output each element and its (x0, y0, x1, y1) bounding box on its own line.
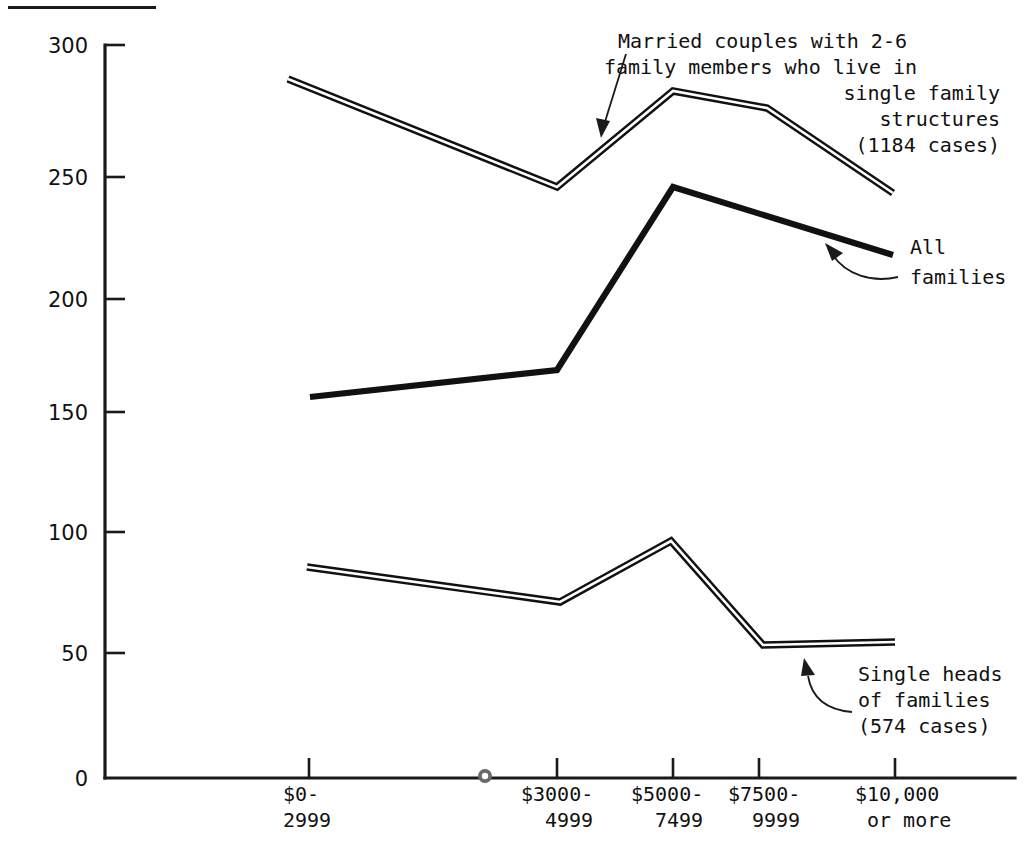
series-married-couples (288, 79, 893, 193)
annotation-single-heads-leader-line (808, 676, 852, 712)
x-tick-label-4-line2: 9999 (752, 808, 800, 832)
annotation-all-families-line-1: All (910, 235, 946, 259)
line-chart-canvas: 300 250 200 150 100 50 0 $0- 2999 $3000- (0, 0, 1026, 851)
y-tick-label-50: 50 (61, 642, 88, 666)
annotation-all-families-leader-line (832, 254, 898, 279)
x-tick-label-2-line1: $3000- (521, 782, 593, 806)
x-tick-label-3-line1: $5000- (631, 782, 703, 806)
series-all-families-line (310, 187, 893, 397)
annotation-married-arrow-icon (596, 118, 610, 138)
y-tick-label-0: 0 (75, 767, 88, 791)
x-tick-label-3-line2: 7499 (655, 808, 703, 832)
annotation-single-heads-line-1: Single heads (858, 662, 1003, 686)
series-single-heads-inner (307, 541, 895, 645)
annotation-married-line-1: Married couples with 2-6 (618, 29, 907, 53)
y-tick-label-100: 100 (48, 521, 88, 545)
y-axis: 300 250 200 150 100 50 0 (48, 34, 125, 791)
series-all-families (310, 187, 893, 397)
x-tick-label-3: $5000- 7499 (631, 782, 703, 832)
x-axis: $0- 2999 $3000- 4999 $5000- 7499 $7500- … (105, 758, 1015, 832)
x-tick-label-1-line1: $0- (283, 782, 319, 806)
x-tick-label-1-line2: 2999 (283, 808, 331, 832)
x-tick-label-5-line1: $10,000 (855, 782, 939, 806)
axis-marker-dot-center (482, 773, 488, 779)
annotation-all-families-line-2: families (910, 265, 1006, 289)
annotation-married-line-4: structures (880, 107, 1000, 131)
y-tick-label-150: 150 (48, 401, 88, 425)
series-married-couples-outer (288, 79, 893, 193)
y-tick-label-300: 300 (48, 34, 88, 58)
x-tick-label-2: $3000- 4999 (521, 782, 593, 832)
annotation-all-families-arrow-icon (825, 243, 843, 261)
series-single-heads (307, 541, 895, 645)
x-tick-label-1: $0- 2999 (283, 782, 331, 832)
x-tick-label-2-line2: 4999 (545, 808, 593, 832)
annotation-married-line-3: single family (843, 81, 1000, 105)
annotation-married-line-5: (1184 cases) (856, 133, 1001, 157)
y-tick-label-200: 200 (48, 288, 88, 312)
annotation-married-couples: Married couples with 2-6 family members … (596, 29, 1000, 157)
x-tick-label-4-line1: $7500- (728, 782, 800, 806)
annotation-married-line-2: family members who live in (604, 55, 917, 79)
series-single-heads-outer (307, 541, 895, 645)
annotation-single-heads-arrow-icon (801, 658, 815, 676)
annotation-single-heads: Single heads of families (574 cases) (801, 658, 1003, 738)
chart-figure: 300 250 200 150 100 50 0 $0- 2999 $3000- (0, 0, 1026, 851)
y-tick-label-250: 250 (48, 166, 88, 190)
annotation-single-heads-line-3: (574 cases) (858, 714, 990, 738)
x-tick-label-4: $7500- 9999 (728, 782, 800, 832)
x-tick-label-5-line2: or more (867, 808, 951, 832)
annotation-single-heads-line-2: of families (858, 688, 990, 712)
x-tick-label-5: $10,000 or more (855, 782, 951, 832)
